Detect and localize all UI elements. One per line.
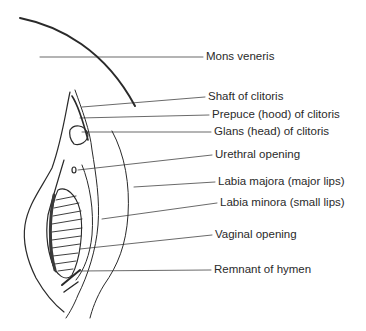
label-labia-majora: Labia majora (major lips) bbox=[218, 175, 345, 188]
label-vaginal-opening: Vaginal opening bbox=[215, 228, 297, 241]
label-remnant-of-hymen: Remnant of hymen bbox=[214, 263, 311, 276]
label-glans: Glans (head) of clitoris bbox=[214, 125, 329, 138]
label-urethral-opening: Urethral opening bbox=[215, 148, 300, 161]
label-prepuce: Prepuce (hood) of clitoris bbox=[212, 108, 340, 121]
label-mons-veneris: Mons veneris bbox=[206, 50, 274, 63]
label-shaft-of-clitoris: Shaft of clitoris bbox=[208, 90, 283, 103]
anatomy-drawing bbox=[0, 0, 366, 331]
anatomy-diagram: Mons veneris Shaft of clitoris Prepuce (… bbox=[0, 0, 366, 331]
label-labia-minora: Labia minora (small lips) bbox=[220, 196, 345, 209]
